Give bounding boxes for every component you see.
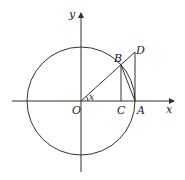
unit-circle-diagram: y x O C A B D x bbox=[0, 0, 185, 180]
label-C: C bbox=[117, 104, 126, 117]
label-origin: O bbox=[72, 104, 81, 117]
diagram-canvas: y x O C A B D x bbox=[0, 0, 185, 180]
label-angle-x: x bbox=[89, 92, 94, 102]
label-x-axis: x bbox=[166, 103, 173, 116]
chord-BA bbox=[121, 65, 135, 101]
label-B: B bbox=[113, 52, 122, 65]
label-y-axis: y bbox=[68, 8, 76, 21]
angle-arc bbox=[86, 96, 88, 101]
label-A: A bbox=[136, 104, 145, 117]
label-D: D bbox=[135, 44, 145, 57]
